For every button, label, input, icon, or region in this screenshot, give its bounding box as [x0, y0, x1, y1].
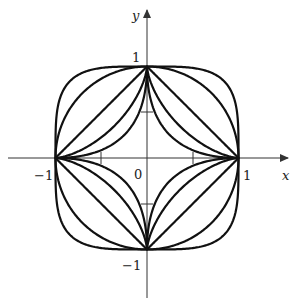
x-axis-label: x: [282, 168, 290, 183]
x-tick-label-1: 1: [243, 168, 251, 183]
y-axis-label: y: [131, 8, 140, 23]
origin-label: 0: [134, 167, 142, 182]
x-tick-label-neg1: −1: [34, 168, 53, 183]
superellipse-figure: y x 0 −1 1 1 −1: [0, 0, 300, 300]
y-tick-label-neg1: −1: [122, 258, 141, 273]
y-tick-label-1: 1: [132, 50, 140, 65]
